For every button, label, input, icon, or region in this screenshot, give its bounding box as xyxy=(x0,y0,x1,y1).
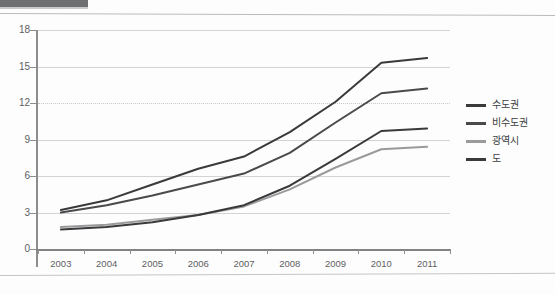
y-axis-tick-label: 12 xyxy=(6,98,30,108)
y-axis-tick-label: 3 xyxy=(6,208,30,218)
legend-item-광역시[interactable]: 광역시 xyxy=(466,132,552,150)
legend-item-label: 광역시 xyxy=(492,135,519,147)
y-axis-tick xyxy=(30,176,36,177)
legend-item-label: 도 xyxy=(492,153,501,165)
page-top-crop-bar-shadow xyxy=(0,7,88,9)
legend-swatch-icon xyxy=(466,158,486,161)
horizontal-rule-bottom xyxy=(0,273,555,276)
y-axis-tick-label: 18 xyxy=(6,25,30,35)
legend-item-도[interactable]: 도 xyxy=(466,150,552,168)
legend-item-label: 수도권 xyxy=(492,99,519,111)
legend-item-수도권[interactable]: 수도권 xyxy=(466,96,552,114)
y-axis-tick xyxy=(30,213,36,214)
plot-area: 0369121518 20032004200520062007200820092… xyxy=(38,30,450,267)
y-axis-tick-label: 15 xyxy=(6,62,30,72)
y-axis-tick xyxy=(30,30,36,31)
page-canvas: 0369121518 20032004200520062007200820092… xyxy=(0,0,555,294)
y-axis-tick xyxy=(30,140,36,141)
series-line-도 xyxy=(61,129,427,230)
series-lines xyxy=(38,30,450,267)
series-line-비수도권 xyxy=(61,88,427,212)
series-line-수도권 xyxy=(61,58,427,210)
chart-legend: 수도권비수도권광역시도 xyxy=(466,96,552,168)
y-axis-tick xyxy=(30,67,36,68)
legend-swatch-icon xyxy=(466,122,486,125)
x-axis-tick xyxy=(450,249,451,254)
y-axis-tick-label: 0 xyxy=(6,244,30,254)
y-axis-tick xyxy=(30,103,36,104)
y-axis-tick-label: 6 xyxy=(6,171,30,181)
legend-item-label: 비수도권 xyxy=(492,117,528,129)
series-line-광역시 xyxy=(61,147,427,227)
page-top-crop-bar xyxy=(0,0,88,7)
legend-item-비수도권[interactable]: 비수도권 xyxy=(466,114,552,132)
legend-swatch-icon xyxy=(466,104,486,107)
legend-swatch-icon xyxy=(466,140,486,143)
horizontal-rule-top xyxy=(0,13,555,16)
y-axis-tick-label: 9 xyxy=(6,135,30,145)
y-axis-tick xyxy=(30,249,36,250)
